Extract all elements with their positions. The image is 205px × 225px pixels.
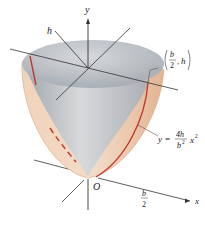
- b-over-2-label: b 2: [141, 189, 148, 209]
- x-axis-label: x: [194, 196, 199, 206]
- paraboloid-figure: y h b 2 , h y = 4h b 2 x 2 x O b: [0, 0, 205, 225]
- point-sep: ,: [177, 57, 179, 66]
- height-label: h: [47, 25, 52, 36]
- b-num: b: [142, 189, 146, 198]
- point-h: h: [181, 56, 186, 66]
- b-den: 2: [142, 200, 146, 209]
- eq-den: b: [177, 141, 181, 150]
- point-den: 2: [170, 61, 174, 70]
- eq-equals: =: [165, 134, 170, 144]
- lower-axes: [62, 178, 190, 202]
- eq-den-exp: 2: [182, 139, 185, 145]
- eq-num: 4h: [176, 130, 184, 139]
- y-axis-label: y: [84, 4, 90, 15]
- x-axis-arrow: [185, 199, 190, 204]
- eq-x-exp: 2: [195, 133, 198, 139]
- point-num: b: [170, 50, 174, 59]
- point-label: b 2 , h: [165, 50, 190, 70]
- origin-label: O: [93, 181, 100, 192]
- eq-y: y: [157, 134, 162, 144]
- curve-equation: y = 4h b 2 x 2: [157, 130, 198, 150]
- eq-x: x: [189, 135, 194, 145]
